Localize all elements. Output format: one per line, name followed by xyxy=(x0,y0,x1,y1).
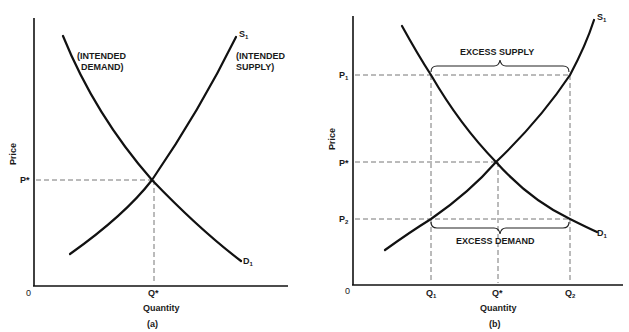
panel-b-excess-supply-brace xyxy=(431,60,569,72)
panel-a-origin-label: 0 xyxy=(26,288,31,298)
supply-demand-figure: Price P* 0 Q* Quantity (a) (INTENDED DEM… xyxy=(0,0,629,332)
panel-a: Price P* 0 Q* Quantity (a) (INTENDED DEM… xyxy=(8,18,288,329)
panel-b-supply-label: S1 xyxy=(597,12,607,23)
panel-a-demand-label: D1 xyxy=(243,256,254,267)
panel-b-excess-supply-label: EXCESS SUPPLY xyxy=(460,47,534,57)
panel-b-p-star-label: P* xyxy=(339,158,349,168)
panel-b-q1-label: Q1 xyxy=(426,288,437,299)
panel-b-p1-label: P1 xyxy=(339,70,349,81)
panel-b-caption: (b) xyxy=(489,319,501,329)
panel-b-q2-label: Q2 xyxy=(565,288,576,299)
panel-a-supply-label: S1 xyxy=(239,29,249,40)
panel-b-origin-label: 0 xyxy=(345,286,350,296)
panel-a-p-star-label: P* xyxy=(20,175,30,185)
panel-b: EXCESS SUPPLY EXCESS DEMAND Price P1 P* … xyxy=(327,12,623,329)
panel-b-demand-label: D1 xyxy=(597,228,608,239)
panel-a-supply-note-line2: SUPPLY) xyxy=(236,62,274,72)
panel-a-caption: (a) xyxy=(147,319,158,329)
panel-b-y-label: Price xyxy=(327,128,337,150)
panel-a-demand-note-line1: (INTENDED xyxy=(77,51,126,61)
panel-b-excess-demand-brace xyxy=(431,222,569,234)
panel-b-q-star-label: Q* xyxy=(492,288,503,298)
panel-a-q-star-label: Q* xyxy=(148,288,159,298)
panel-a-demand-note-line2: DEMAND) xyxy=(81,62,124,72)
panel-a-supply-note-line1: (INTENDED xyxy=(236,51,285,61)
panel-a-y-label: Price xyxy=(8,143,18,165)
panel-b-x-label: Quantity xyxy=(480,303,517,313)
panel-b-p2-label: P2 xyxy=(339,214,349,225)
panel-b-excess-demand-label: EXCESS DEMAND xyxy=(456,236,535,246)
panel-a-x-label: Quantity xyxy=(143,303,180,313)
